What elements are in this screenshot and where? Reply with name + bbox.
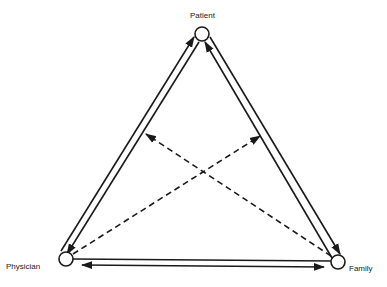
- label-patient: Patient: [190, 11, 215, 20]
- node-family: [331, 255, 345, 269]
- edge-physician-family: [73, 259, 331, 267]
- label-family: Family: [349, 264, 373, 273]
- dashed-edges: [73, 134, 331, 256]
- edge-patient-to-physician: [67, 42, 199, 254]
- edge-physician-family-bidirectional: [82, 265, 324, 267]
- node-patient: [195, 27, 209, 41]
- dashed-physician-to-right-edge: [73, 136, 260, 254]
- label-physician: Physician: [6, 262, 40, 271]
- edge-patient-family: [205, 37, 340, 258]
- edge-patient-to-family: [210, 37, 340, 254]
- edge-family-to-patient: [205, 42, 332, 258]
- triad-diagram: [0, 0, 387, 287]
- dashed-family-to-left-edge: [146, 134, 331, 256]
- node-physician: [59, 252, 73, 266]
- edge-physician-family-plain: [73, 259, 331, 261]
- edge-patient-physician: [61, 37, 199, 254]
